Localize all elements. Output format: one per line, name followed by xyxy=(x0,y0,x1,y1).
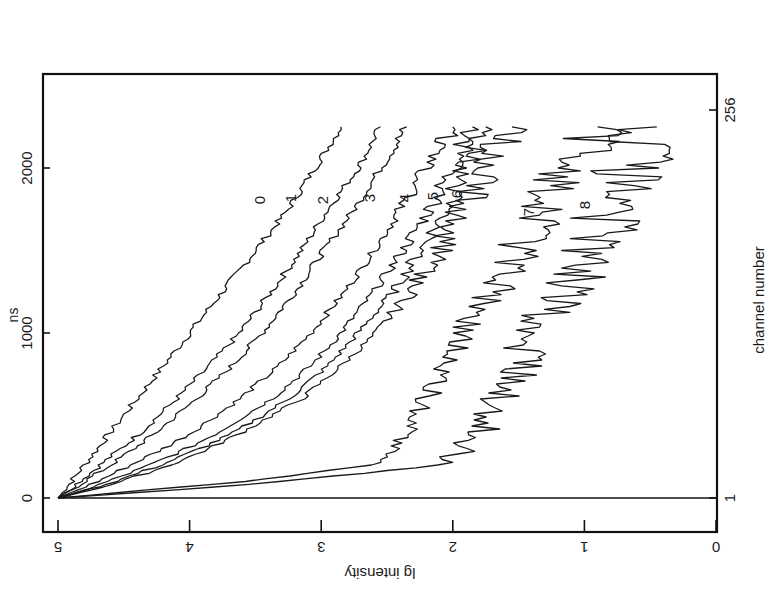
curve-label-5: 5 xyxy=(424,192,441,200)
curve-label-7: 7 xyxy=(520,208,537,216)
curve-label-8: 8 xyxy=(576,201,593,209)
decay-curve-8 xyxy=(58,127,673,498)
curve-label-1: 1 xyxy=(282,194,299,202)
x-tick-label: 2 xyxy=(449,539,457,556)
ns-axis: 010002000 xyxy=(18,151,50,502)
curve-label-3: 3 xyxy=(361,194,378,202)
channel-tick-label: 1 xyxy=(721,494,738,502)
decay-curve-2 xyxy=(58,127,407,498)
y-axis-right-label: channel number xyxy=(750,246,767,354)
x-tick-label: 0 xyxy=(712,539,720,556)
x-axis-label: lg intensity xyxy=(344,565,415,582)
curve-label-0: 0 xyxy=(251,196,268,204)
x-tick-label: 3 xyxy=(317,539,325,556)
y-tick-label: 2000 xyxy=(18,151,35,184)
decay-curves-figure: 012345 010002000 1256 lg intensity ns ch… xyxy=(0,0,778,598)
lg-intensity-axis: 012345 xyxy=(54,520,720,556)
curve-label-4: 4 xyxy=(396,194,413,202)
y-axis-left-label: ns xyxy=(5,308,21,323)
decay-curves xyxy=(58,127,673,498)
decay-curve-1 xyxy=(58,127,380,498)
decay-curve-5 xyxy=(58,127,492,498)
channel-axis: 1256 xyxy=(709,97,738,502)
decay-curve-4 xyxy=(58,127,478,498)
x-tick-label: 1 xyxy=(580,539,588,556)
x-tick-label: 5 xyxy=(54,539,62,556)
decay-curve-7 xyxy=(58,127,622,498)
curve-label-2: 2 xyxy=(314,196,331,204)
x-tick-label: 4 xyxy=(185,539,193,556)
channel-tick-label: 256 xyxy=(721,97,738,122)
curve-label-6: 6 xyxy=(448,190,465,198)
y-tick-label: 0 xyxy=(18,494,35,502)
plot-area: 012345 010002000 1256 lg intensity ns ch… xyxy=(0,0,778,598)
